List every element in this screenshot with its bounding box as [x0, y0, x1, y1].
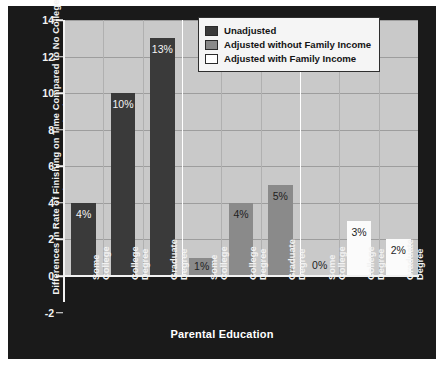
y-tick-label: -2	[28, 307, 54, 319]
y-tick-label: 0	[28, 270, 54, 282]
legend-swatch-icon	[205, 54, 218, 64]
bar-value-label: 13%	[143, 43, 182, 55]
y-tick-label: 14	[28, 14, 54, 26]
x-tick-label: College Degree	[248, 246, 268, 280]
bar-value-label: 4%	[221, 208, 260, 220]
legend-item[interactable]: Unadjusted	[205, 24, 371, 37]
gridline-vertical	[143, 20, 144, 276]
legend-swatch-icon	[205, 40, 218, 50]
y-axis-line	[63, 20, 65, 302]
y-tick-label: 2	[28, 233, 54, 245]
y-tick-mark	[56, 275, 63, 277]
x-axis-title: Parental Education	[8, 328, 436, 340]
gridline-vertical	[103, 20, 104, 276]
y-tick-mark	[56, 19, 63, 21]
legend-swatch-icon	[205, 26, 218, 36]
legend-item[interactable]: Adjusted with Family Income	[205, 52, 371, 65]
y-tick-mark	[56, 56, 63, 58]
x-tick-label: Graduate Degree	[287, 239, 307, 280]
x-tick-label: College Degree	[130, 246, 150, 280]
bar-value-label: 10%	[103, 98, 142, 110]
chart-legend: UnadjustedAdjusted without Family Income…	[198, 17, 380, 72]
legend-label: Adjusted with Family Income	[224, 53, 356, 64]
legend-label: Adjusted without Family Income	[224, 39, 371, 50]
y-tick-mark	[56, 239, 63, 241]
legend-label: Unadjusted	[224, 25, 276, 36]
y-tick-label: 4	[28, 197, 54, 209]
x-tick-label: Some College	[209, 246, 229, 280]
group-separator	[182, 20, 183, 276]
bar-value-label: 4%	[64, 208, 103, 220]
x-tick-label: Graduate Degree	[169, 239, 189, 280]
y-tick-mark	[56, 166, 63, 168]
chart-figure: Differences in Rate of Finishing on Time…	[8, 6, 436, 359]
y-tick-mark	[56, 92, 63, 94]
y-tick-label: 12	[28, 51, 54, 63]
y-tick-mark	[56, 312, 63, 314]
x-tick-label: Some College	[91, 246, 111, 280]
y-tick-mark	[56, 129, 63, 131]
legend-item[interactable]: Adjusted without Family Income	[205, 38, 371, 51]
y-tick-label: 8	[28, 124, 54, 136]
bar-value-label: 3%	[339, 226, 378, 238]
x-tick-label: Some College	[327, 246, 347, 280]
x-tick-label: Graduate Degree	[405, 239, 425, 280]
bar-value-label: 5%	[261, 190, 300, 202]
x-tick-label: College Degree	[366, 246, 386, 280]
y-tick-label: 6	[28, 160, 54, 172]
y-tick-label: 10	[28, 87, 54, 99]
y-tick-mark	[56, 202, 63, 204]
